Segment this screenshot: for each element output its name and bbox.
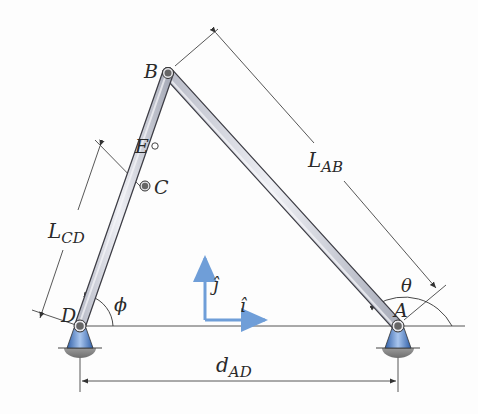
link-bd — [79, 72, 168, 326]
diagram-canvas: LAB LCD dAD ϕ θ — [0, 0, 478, 414]
point-d-label: D — [60, 304, 76, 326]
linkage-diagram: LAB LCD dAD ϕ θ — [0, 0, 478, 414]
point-e — [152, 143, 158, 149]
point-a-label: A — [392, 299, 408, 321]
j-hat-label: ĵ — [210, 274, 220, 295]
coordinate-axes: ĵ î — [205, 258, 265, 320]
i-hat-label: î — [240, 295, 248, 316]
phi-label: ϕ — [114, 293, 127, 315]
point-b-label: B — [143, 60, 158, 82]
pin-b — [163, 68, 174, 79]
point-e-label: E — [134, 135, 149, 157]
d-ad-label: dAD — [216, 353, 252, 381]
dimension-d-ad: dAD — [80, 332, 398, 392]
link-ab — [166, 73, 398, 328]
pin-c — [140, 181, 150, 191]
pin-a — [392, 320, 404, 332]
l-cd-label: LCD — [47, 219, 85, 247]
l-ab-label: LAB — [307, 148, 343, 176]
point-c-label: C — [154, 176, 169, 198]
theta-label: θ — [401, 275, 412, 296]
